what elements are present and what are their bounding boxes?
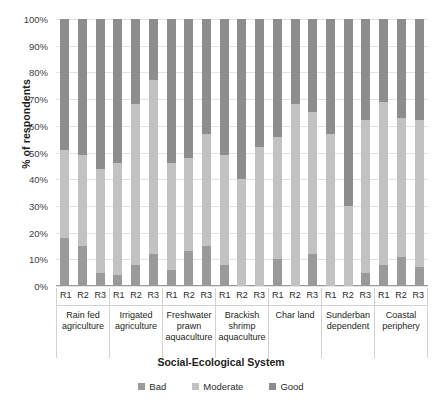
bar-segment-moderate[interactable]: [379, 102, 388, 265]
stacked-bar[interactable]: [415, 19, 424, 286]
bar-segment-good[interactable]: [308, 19, 317, 112]
bar-segment-moderate[interactable]: [308, 112, 317, 254]
bar-segment-good[interactable]: [255, 19, 264, 147]
bar-segment-bad[interactable]: [379, 265, 388, 286]
bar-segment-bad[interactable]: [415, 267, 424, 286]
bar-segment-good[interactable]: [167, 19, 176, 163]
legend-item-bad[interactable]: Bad: [138, 381, 166, 392]
bar-segment-moderate[interactable]: [397, 118, 406, 257]
bar-segment-good[interactable]: [291, 19, 300, 104]
round-label: R2: [340, 290, 356, 304]
bar-segment-good[interactable]: [273, 19, 282, 136]
bar-segment-bad[interactable]: [78, 246, 87, 286]
bar-segment-moderate[interactable]: [273, 137, 282, 260]
bar-segment-bad[interactable]: [202, 246, 211, 286]
stacked-bar[interactable]: [149, 19, 158, 286]
bar-segment-good[interactable]: [326, 19, 335, 134]
bar-segment-bad[interactable]: [149, 254, 158, 286]
round-label-row: R1R2R3: [216, 288, 268, 304]
bar-segment-moderate[interactable]: [149, 80, 158, 254]
bar-segment-moderate[interactable]: [113, 163, 122, 275]
stacked-bar[interactable]: [60, 19, 69, 286]
bar-segment-good[interactable]: [361, 19, 370, 120]
legend-item-moderate[interactable]: Moderate: [192, 381, 243, 392]
round-label: R2: [234, 290, 250, 304]
stacked-bar[interactable]: [131, 19, 140, 286]
bar-segment-moderate[interactable]: [361, 120, 370, 272]
bar-segment-moderate[interactable]: [60, 150, 69, 238]
round-label: R3: [251, 290, 267, 304]
x-axis-group: R1R2R3Brackish shrimp aquaculture: [216, 288, 269, 358]
y-axis-tick-label: 30%: [0, 200, 48, 211]
bar-segment-good[interactable]: [113, 19, 122, 163]
bar-segment-moderate[interactable]: [326, 134, 335, 286]
stacked-bar[interactable]: [273, 19, 282, 286]
bar-segment-moderate[interactable]: [344, 206, 353, 286]
stacked-bar[interactable]: [78, 19, 87, 286]
stacked-bar[interactable]: [237, 19, 246, 286]
y-axis-tick-label: 60%: [0, 120, 48, 131]
category-label: Irrigated agriculture: [110, 306, 162, 358]
bar-group: [322, 19, 375, 286]
stacked-bar[interactable]: [291, 19, 300, 286]
x-axis-group: R1R2R3Freshwater prawn aquaculture: [163, 288, 216, 358]
stacked-bar[interactable]: [326, 19, 335, 286]
stacked-bar[interactable]: [397, 19, 406, 286]
bar-segment-bad[interactable]: [60, 238, 69, 286]
bar-segment-moderate[interactable]: [415, 120, 424, 267]
stacked-bar[interactable]: [96, 19, 105, 286]
stacked-bar[interactable]: [308, 19, 317, 286]
bar-segment-moderate[interactable]: [78, 155, 87, 246]
bar-segment-moderate[interactable]: [131, 104, 140, 264]
bar-segment-moderate[interactable]: [167, 163, 176, 270]
bar-segment-good[interactable]: [220, 19, 229, 155]
stacked-bar[interactable]: [361, 19, 370, 286]
bar-segment-moderate[interactable]: [220, 155, 229, 264]
x-axis-group: R1R2R3Coastal periphery: [375, 288, 428, 358]
bar-segment-moderate[interactable]: [255, 147, 264, 286]
bar-segment-good[interactable]: [184, 19, 193, 158]
bar-segment-good[interactable]: [78, 19, 87, 155]
bar-segment-moderate[interactable]: [291, 104, 300, 286]
bar-segment-good[interactable]: [415, 19, 424, 120]
bar-segment-bad[interactable]: [131, 265, 140, 286]
stacked-bar[interactable]: [255, 19, 264, 286]
bar-segment-bad[interactable]: [273, 259, 282, 286]
bar-segment-good[interactable]: [60, 19, 69, 150]
round-label-row: R1R2R3: [269, 288, 321, 304]
stacked-bar[interactable]: [202, 19, 211, 286]
bar-segment-bad[interactable]: [184, 251, 193, 286]
round-label: R3: [145, 290, 161, 304]
stacked-bar[interactable]: [344, 19, 353, 286]
legend-item-good[interactable]: Good: [269, 381, 303, 392]
x-axis-group: R1R2R3Irrigated agriculture: [110, 288, 163, 358]
bar-segment-good[interactable]: [379, 19, 388, 102]
bar-segment-moderate[interactable]: [184, 158, 193, 251]
bar-segment-good[interactable]: [131, 19, 140, 104]
bar-segment-bad[interactable]: [397, 257, 406, 286]
bar-segment-bad[interactable]: [308, 254, 317, 286]
bar-segment-moderate[interactable]: [202, 134, 211, 246]
bar-segment-good[interactable]: [149, 19, 158, 80]
stacked-bar[interactable]: [220, 19, 229, 286]
bar-segment-good[interactable]: [397, 19, 406, 118]
bar-segment-good[interactable]: [344, 19, 353, 206]
bar-segment-bad[interactable]: [96, 273, 105, 286]
bar-segment-moderate[interactable]: [237, 179, 246, 286]
bar-group: [109, 19, 162, 286]
bar-segment-moderate[interactable]: [96, 169, 105, 273]
stacked-bar[interactable]: [184, 19, 193, 286]
bar-segment-bad[interactable]: [361, 273, 370, 286]
x-axis-group: R1R2R3Char land: [269, 288, 322, 358]
round-label-row: R1R2R3: [57, 288, 109, 304]
bar-segment-good[interactable]: [202, 19, 211, 134]
bar-segment-bad[interactable]: [113, 275, 122, 286]
bar-segment-good[interactable]: [237, 19, 246, 179]
stacked-bar[interactable]: [113, 19, 122, 286]
bar-segment-bad[interactable]: [167, 270, 176, 286]
bar-segment-bad[interactable]: [220, 265, 229, 286]
stacked-bar[interactable]: [379, 19, 388, 286]
bar-segment-good[interactable]: [96, 19, 105, 169]
stacked-bar[interactable]: [167, 19, 176, 286]
x-axis-group: R1R2R3Sunderban dependent: [322, 288, 375, 358]
